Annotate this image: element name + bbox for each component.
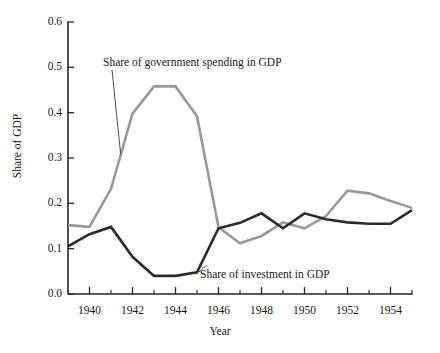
y-axis-tick-label: 0.0 bbox=[20, 288, 62, 300]
x-axis-tick-label: 1950 bbox=[293, 305, 316, 317]
x-axis-tick-label: 1942 bbox=[121, 305, 144, 317]
x-axis-title: Year bbox=[0, 325, 440, 337]
y-axis-tick-label: 0.6 bbox=[20, 16, 62, 28]
chart-container: Year Share of GDP Share of government sp… bbox=[0, 0, 440, 353]
y-axis-tick-label: 0.5 bbox=[20, 62, 62, 74]
y-axis-tick-label: 0.2 bbox=[20, 198, 62, 210]
annotation-government-spending: Share of government spending in GDP bbox=[103, 56, 282, 68]
chart-plot-area bbox=[0, 0, 440, 353]
x-axis-tick-label: 1944 bbox=[164, 305, 187, 317]
x-axis-tick-label: 1948 bbox=[250, 305, 273, 317]
x-axis-tick-label: 1952 bbox=[336, 305, 359, 317]
x-axis-tick-label: 1946 bbox=[207, 305, 230, 317]
x-axis-tick-label: 1940 bbox=[78, 305, 101, 317]
x-axis-tick-label: 1954 bbox=[379, 305, 402, 317]
y-axis-tick-label: 0.3 bbox=[20, 152, 62, 164]
series-line bbox=[68, 86, 412, 243]
y-axis-tick-label: 0.4 bbox=[20, 107, 62, 119]
annotation-investment: Share of investment in GDP bbox=[200, 268, 330, 280]
leader-line-government-spending bbox=[112, 70, 121, 154]
y-axis-tick-label: 0.1 bbox=[20, 243, 62, 255]
